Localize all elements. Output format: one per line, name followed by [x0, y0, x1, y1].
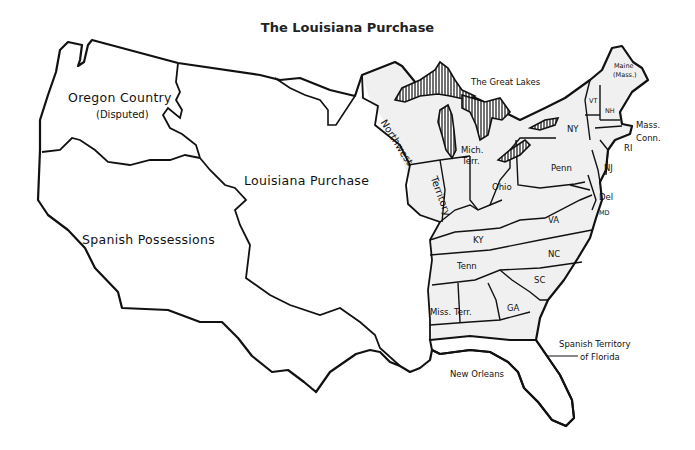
label-oregon-disputed: (Disputed): [96, 110, 149, 120]
label-louisiana-purchase: Louisiana Purchase: [244, 175, 369, 188]
label-nh: NH: [605, 108, 615, 115]
label-great-lakes: The Great Lakes: [471, 78, 540, 87]
louisiana-spanish-border: [200, 158, 400, 366]
label-ga: GA: [507, 304, 519, 313]
label-nc: NC: [548, 250, 560, 259]
label-spanish-florida-2: of Florida: [580, 353, 620, 362]
oregon-louisiana-border: [163, 63, 200, 158]
florida-area: [430, 336, 574, 426]
label-sc: SC: [534, 276, 545, 285]
label-mich-terr-2: Terr.: [462, 157, 480, 166]
label-del: Del: [599, 193, 613, 202]
label-mich-terr-1: Mich.: [461, 146, 483, 155]
label-penn: Penn: [551, 164, 572, 173]
label-ny: NY: [567, 125, 579, 134]
florida-pointer-line: [548, 354, 578, 358]
label-spanish-possessions: Spanish Possessions: [82, 234, 215, 247]
label-miss-terr: Miss. Terr.: [430, 308, 472, 317]
label-maine-mass: (Mass.): [613, 72, 637, 79]
label-vt: VT: [589, 98, 597, 105]
oregon-spanish-border: [42, 138, 200, 165]
label-conn: Conn.: [636, 134, 661, 143]
label-spanish-florida-1: Spanish Territory: [559, 340, 631, 349]
label-ohio: Ohio: [492, 183, 512, 192]
label-ky: KY: [473, 236, 483, 245]
label-nj: NJ: [604, 164, 613, 173]
label-mass: Mass.: [636, 121, 660, 130]
map-canvas: [0, 0, 695, 450]
label-tenn: Tenn: [457, 262, 477, 271]
label-md: MD: [599, 210, 610, 217]
label-oregon-country: Oregon Country: [68, 92, 172, 105]
label-va: VA: [548, 216, 559, 225]
label-ri: RI: [624, 144, 632, 153]
label-new-orleans: New Orleans: [450, 370, 504, 379]
label-maine: Maine: [614, 63, 634, 70]
